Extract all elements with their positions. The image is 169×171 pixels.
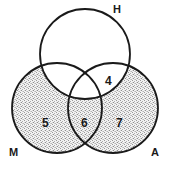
set-label-a: A xyxy=(151,147,159,158)
set-label-m: M xyxy=(9,147,18,158)
set-label-h: H xyxy=(113,4,121,15)
region-count-a-only: 7 xyxy=(116,117,123,129)
venn-diagram-canvas xyxy=(0,0,169,171)
region-count-m-and-a: 6 xyxy=(81,117,88,129)
venn-diagram: H M A 4 5 6 7 xyxy=(0,0,169,171)
region-count-h-and-a: 4 xyxy=(105,75,112,87)
region-count-m-only: 5 xyxy=(42,117,49,129)
shaded-region-fill xyxy=(0,0,169,171)
